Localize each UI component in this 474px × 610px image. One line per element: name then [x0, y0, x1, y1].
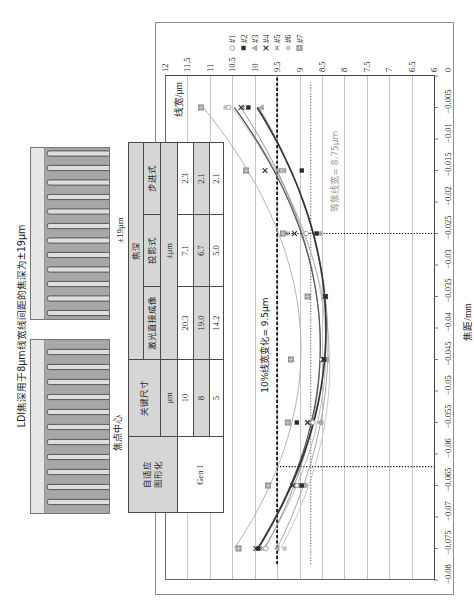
dof-comparison-table: 自适应 图形化 关键尺寸 焦深 激光直接成像 投影式 步进式 μm ±μm Ge… [128, 142, 224, 513]
defocus-line-image [30, 147, 110, 320]
comb-finger [47, 379, 110, 384]
data-point-marker [300, 168, 304, 172]
x-tick-label: −0.07 [443, 501, 453, 521]
marker-square-icon [295, 420, 299, 424]
legend-label: #4 [261, 34, 271, 43]
y-tick-label: 10 [250, 64, 260, 73]
comb-finger [47, 252, 110, 257]
stepper-cell: 2.3 [178, 142, 194, 214]
focus-center-line-image [30, 339, 110, 514]
comb-finger [47, 281, 110, 286]
table-row: Gen 1 10 20.3 7.1 2.3 [178, 142, 194, 512]
marker-square-icon [256, 546, 260, 550]
comb-finger [47, 165, 110, 170]
x-tick-label: −0.075 [443, 531, 453, 555]
reference-line-label: 10%线宽变化= 9.5μm [259, 297, 270, 392]
data-point-marker [300, 483, 304, 487]
y-tick-label: 6 [429, 68, 439, 72]
data-point-marker [236, 546, 241, 551]
data-point-marker [305, 294, 310, 299]
cd-cell: 10 [178, 360, 194, 437]
comb-finger [47, 267, 110, 272]
comb-finger [47, 409, 110, 414]
comb-finger [47, 310, 110, 315]
data-point-marker [280, 231, 285, 236]
comb-finger [47, 223, 110, 228]
x-tick-label: 0 [443, 68, 453, 72]
marker-circle-open-icon [264, 546, 269, 551]
legend-label: #3 [250, 35, 260, 44]
data-point-marker [266, 483, 271, 488]
cd-cell: 8 [194, 360, 210, 437]
x-tick-label: −0.055 [443, 405, 453, 429]
legend-label: #6 [283, 35, 293, 44]
y-tick-label: 7.5 [362, 61, 372, 72]
comb-finger [47, 180, 110, 185]
marker-square-icon [322, 357, 326, 361]
header-adaptive-patterning: 自适应 图形化 [129, 437, 178, 513]
comb-finger [47, 499, 110, 504]
comb-finger [47, 349, 110, 354]
defocus-caption: ±19μm [114, 190, 126, 270]
header-projection: 投影式 [144, 215, 161, 287]
marker-circle-open-icon [230, 46, 235, 51]
comb-pad-strip [30, 147, 44, 320]
data-point-marker [226, 105, 231, 110]
x-tick-label: −0.01 [443, 123, 453, 143]
x-tick-label: −0.02 [443, 186, 453, 206]
legend-marker [241, 46, 245, 50]
comb-finger [47, 364, 110, 369]
data-point-marker [282, 546, 287, 551]
comb-finger [47, 296, 110, 301]
data-point-marker [304, 231, 309, 236]
x-tick-label: −0.025 [443, 216, 453, 240]
legend-label: #5 [272, 35, 282, 44]
legend-label: #2 [239, 35, 249, 44]
rotated-figure: −0.08−0.075−0.07−0.065−0.06−0.055−0.05−0… [0, 0, 474, 610]
x-tick-label: −0.015 [443, 153, 453, 177]
comb-finger [47, 194, 110, 199]
y-tick-label: 9.5 [272, 61, 282, 72]
header-stepper: 步进式 [144, 142, 161, 214]
figure-title: LDI焦深用于8μm线宽线间距的焦深为±19μm [15, 216, 29, 436]
legend-marker [286, 46, 291, 51]
marker-square-icon [241, 46, 245, 50]
x-tick-label: −0.005 [443, 90, 453, 114]
data-point-marker [314, 231, 318, 235]
reference-line-label: 等焦线宽= 8.75μm [329, 131, 340, 212]
data-point-marker [323, 294, 327, 298]
ldi-cell: 14.2 [210, 287, 224, 360]
comb-finger [47, 454, 110, 459]
x-tick-label: −0.045 [443, 342, 453, 366]
comb-finger [47, 151, 110, 156]
cd-cell: 5 [210, 360, 224, 437]
comb-finger [47, 439, 110, 444]
data-point-marker [295, 420, 299, 424]
projection-cell: 6.7 [194, 215, 210, 287]
data-point-marker [264, 546, 269, 551]
comb-finger [47, 394, 110, 399]
y-tick-label: 9 [295, 68, 305, 72]
y-tick-label: 12 [160, 64, 170, 73]
header-cd-unit: μm [161, 360, 178, 437]
data-point-marker [198, 105, 203, 110]
marker-square-icon [314, 231, 318, 235]
header-adaptive-line2: 图形化 [153, 437, 164, 512]
generation-cell: Gen 1 [178, 437, 224, 513]
stepper-cell: 2.1 [210, 142, 224, 214]
legend-label: #1 [227, 35, 237, 44]
y-tick-label: 8.5 [317, 61, 327, 72]
ldi-cell: 19.0 [194, 287, 210, 360]
y-axis-title: 线宽/μm [173, 81, 184, 117]
y-tick-label: 8 [339, 68, 349, 72]
y-tick-label: 6.5 [407, 61, 417, 72]
x-tick-label: −0.04 [443, 311, 453, 331]
header-depth-of-focus: 焦深 [129, 142, 144, 359]
legend-marker [297, 45, 302, 50]
y-tick-label: 10.5 [227, 57, 237, 72]
data-point-marker [256, 546, 260, 550]
data-point-marker [311, 420, 316, 425]
header-critical-dimension: 关键尺寸 [129, 360, 161, 437]
comb-finger [47, 238, 110, 243]
ldi-cell: 20.3 [178, 287, 194, 360]
